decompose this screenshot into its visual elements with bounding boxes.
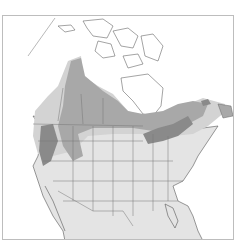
north-america-map-svg <box>3 16 234 240</box>
range-map <box>2 15 234 240</box>
